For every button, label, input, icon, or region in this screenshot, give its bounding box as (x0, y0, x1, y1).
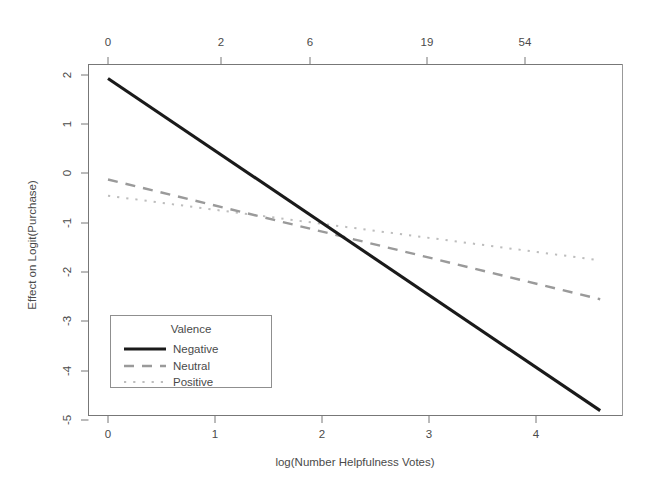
y-tick-label-7: -5 (61, 415, 73, 425)
y-tick-label-0: 2 (61, 72, 73, 78)
top-axis-ticks (108, 57, 525, 65)
x-axis-ticks (108, 416, 536, 424)
legend-label-neutral: Neutral (173, 360, 210, 372)
x-tick-label-2: 2 (319, 428, 325, 440)
x-tick-label-1: 1 (212, 428, 218, 440)
y-tick-label-6: -4 (61, 365, 73, 376)
y-axis-title: Effect on Logit(Purchase) (26, 180, 38, 310)
x-axis-title: log(Number Helpfulness Votes) (275, 456, 434, 468)
legend-title: Valence (171, 323, 212, 335)
y-tick-label-3: -1 (61, 218, 73, 228)
legend-label-positive: Positive (173, 376, 213, 388)
y-tick-label-5: -3 (61, 316, 73, 326)
y-tick-label-4: -2 (61, 267, 73, 277)
legend-label-negative: Negative (173, 343, 218, 355)
top-axis: 0 2 6 19 54 (88, 36, 622, 65)
top-tick-label-1: 2 (218, 36, 224, 48)
series-line-positive (108, 196, 600, 261)
x-axis: 0 1 2 3 4 log(Number Helpfulness Votes) (88, 416, 622, 469)
top-tick-label-0: 0 (105, 36, 111, 48)
series-line-neutral (108, 179, 600, 299)
line-chart-canvas: 0 2 6 19 54 2 1 0 -1 -2 -3 (0, 0, 656, 491)
x-tick-label-3: 3 (426, 428, 432, 440)
top-tick-label-2: 6 (307, 36, 313, 48)
top-tick-label-3: 19 (421, 36, 434, 48)
y-tick-label-2: 0 (61, 170, 73, 176)
legend: Valence Negative Neutral Positive (111, 316, 272, 389)
x-tick-label-0: 0 (105, 428, 111, 440)
x-tick-label-4: 4 (533, 428, 540, 440)
top-tick-label-4: 54 (519, 36, 532, 48)
chart-figure: 0 2 6 19 54 2 1 0 -1 -2 -3 (0, 0, 656, 491)
y-axis-ticks (81, 75, 89, 420)
y-axis: 2 1 0 -1 -2 -3 -4 -5 Effect on Logit(Pur… (26, 64, 89, 425)
y-tick-label-1: 1 (61, 121, 73, 127)
